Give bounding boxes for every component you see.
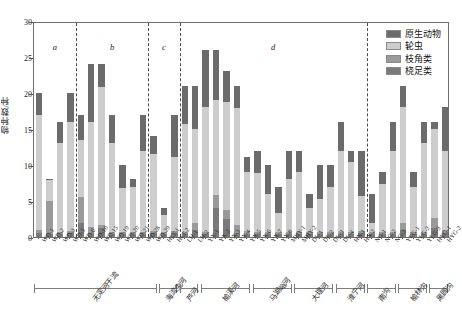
legend-label-rotifera: 轮虫 — [405, 41, 423, 51]
bar-segment-原生动物 — [390, 122, 396, 151]
bar-YX-4[interactable] — [234, 86, 240, 237]
bar-segment-轮虫 — [223, 102, 229, 211]
bar-HYG-2[interactable] — [442, 107, 448, 237]
bar-YX-7[interactable] — [265, 165, 271, 237]
bar-segment-原生动物 — [379, 172, 385, 184]
bar-WD-6[interactable] — [78, 115, 84, 237]
bar-segment-轮虫 — [202, 107, 208, 232]
bar-segment-原生动物 — [254, 151, 260, 173]
bar-WD-3[interactable] — [57, 122, 63, 237]
bar-WD-5[interactable] — [67, 93, 73, 237]
bar-segment-原生动物 — [431, 122, 437, 129]
bar-segment-原生动物 — [119, 165, 125, 188]
plot-area: abcde 原生动物 轮虫 枝角类 桡足类 — [33, 22, 449, 238]
bar-segment-轮虫 — [234, 108, 240, 225]
bar-DL-3[interactable] — [327, 165, 333, 237]
bar-segment-原生动物 — [140, 115, 146, 151]
legend-item-cladocera: 枝角类 — [386, 53, 441, 64]
x-axis-tick-labels: WD-1WD-2WD-3WD-5WD-6WD-10WD-15WD-19WD-20… — [33, 239, 449, 281]
bar-segment-轮虫 — [244, 172, 250, 232]
bracket-cap-right — [291, 284, 292, 293]
bar-WD-29[interactable] — [150, 136, 156, 237]
bar-segment-轮虫 — [254, 173, 260, 232]
bar-HLT-2[interactable] — [171, 115, 177, 237]
bar-segment-原生动物 — [202, 50, 208, 108]
bracket-cap-right — [395, 284, 396, 293]
bar-DL-2[interactable] — [317, 165, 323, 237]
y-axis-tick-label: 20 — [0, 90, 32, 99]
legend-item-protozoa: 原生动物 — [386, 28, 441, 39]
bar-segment-轮虫 — [442, 151, 448, 230]
bar-YX-5[interactable] — [244, 157, 250, 237]
bar-WD-19[interactable] — [109, 115, 115, 237]
bar-MHY-1[interactable] — [286, 151, 292, 237]
bar-WD-10[interactable] — [88, 64, 94, 237]
bar-segment-原生动物 — [286, 151, 292, 180]
bar-segment-原生动物 — [275, 187, 281, 214]
bar-segment-轮虫 — [431, 129, 437, 218]
bar-segment-轮虫 — [296, 172, 302, 232]
legend-item-rotifera: 轮虫 — [386, 41, 441, 52]
y-axis-tick-label: 15 — [0, 126, 32, 135]
bar-WD-1[interactable] — [36, 93, 42, 237]
bar-segment-原生动物 — [213, 50, 219, 100]
bar-segment-原生动物 — [36, 93, 42, 115]
bar-YX-1[interactable] — [202, 50, 208, 237]
bar-segment-原生动物 — [358, 151, 364, 196]
bar-segment-轮虫 — [338, 151, 344, 232]
bar-segment-原生动物 — [67, 93, 73, 122]
bar-segment-原生动物 — [338, 122, 344, 151]
bar-segment-原生动物 — [57, 122, 63, 144]
bar-segment-原生动物 — [317, 165, 323, 199]
bar-segment-原生动物 — [192, 86, 198, 129]
bracket-cap-right — [156, 284, 157, 293]
bar-WD-28[interactable] — [140, 115, 146, 237]
bar-segment-轮虫 — [400, 107, 406, 223]
bar-segment-原生动物 — [171, 115, 177, 157]
bar-HN-2[interactable] — [358, 151, 364, 237]
bar-segment-原生动物 — [130, 179, 136, 186]
bar-segment-轮虫 — [286, 179, 292, 232]
bar-YLG-1[interactable] — [400, 86, 406, 237]
bar-segment-原生动物 — [182, 86, 188, 124]
bar-segment-轮虫 — [192, 129, 198, 223]
bar-YX-2[interactable] — [213, 50, 219, 237]
bar-LH-2[interactable] — [192, 86, 198, 237]
bar-NG-3[interactable] — [390, 122, 396, 237]
bracket-cap-right — [332, 284, 333, 293]
bar-segment-轮虫 — [46, 180, 52, 201]
bar-segment-枝角类 — [213, 195, 219, 208]
bar-segment-轮虫 — [78, 140, 84, 198]
bar-segment-轮虫 — [213, 100, 219, 195]
bar-segment-轮虫 — [67, 122, 73, 231]
legend-swatch-copepoda — [386, 67, 401, 75]
legend-swatch-protozoa — [386, 30, 401, 38]
legend-swatch-cladocera — [386, 55, 401, 63]
bar-segment-原生动物 — [161, 208, 167, 215]
bar-segment-轮虫 — [327, 187, 333, 232]
bar-HYG-1[interactable] — [431, 122, 437, 237]
x-axis-group-brackets: 无定河干流海流兔河芦河榆溪河马湖峪河大理河淮宁河南沟榆林沟黑圆沟 — [33, 284, 449, 330]
bar-segment-原生动物 — [234, 86, 240, 108]
bar-DL-4[interactable] — [338, 122, 344, 237]
bar-HN-1[interactable] — [348, 151, 354, 237]
bar-LH-1[interactable] — [182, 86, 188, 237]
bar-segment-原生动物 — [327, 165, 333, 187]
bar-segment-枝角类 — [78, 197, 84, 222]
bar-YLG-3[interactable] — [421, 122, 427, 237]
bar-segment-原生动物 — [78, 115, 84, 140]
bar-YX-6[interactable] — [254, 151, 260, 237]
bar-segment-原生动物 — [421, 122, 427, 144]
bar-segment-轮虫 — [265, 194, 271, 232]
bar-segment-原生动物 — [296, 151, 302, 173]
bar-WD-15[interactable] — [98, 64, 104, 237]
bar-segment-轮虫 — [358, 196, 364, 231]
y-axis-tick-label: 25 — [0, 54, 32, 63]
y-axis-tick-label: 10 — [0, 162, 32, 171]
legend-label-protozoa: 原生动物 — [405, 29, 441, 39]
bar-segment-原生动物 — [442, 107, 448, 150]
bar-segment-轮虫 — [150, 154, 156, 231]
bar-segment-轮虫 — [109, 143, 115, 232]
bar-YX-3[interactable] — [223, 71, 229, 237]
